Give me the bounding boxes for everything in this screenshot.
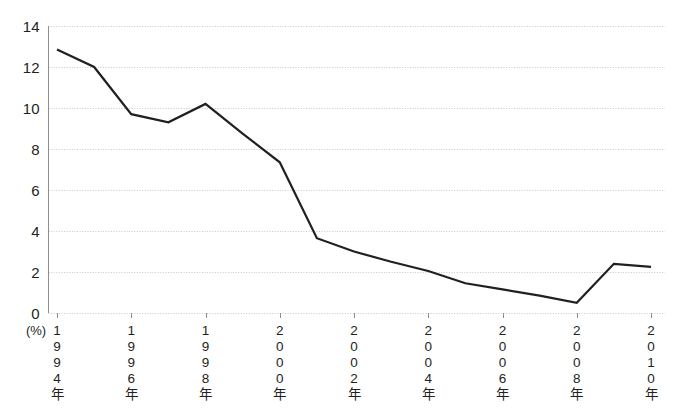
y-axis-unit-label: (%) (26, 323, 46, 338)
x-tick-marks (58, 313, 652, 318)
y-tick-label-0: 0 (31, 305, 39, 322)
y-tick-label-2: 2 (31, 264, 39, 281)
y-tick-label-12: 12 (23, 59, 40, 76)
gridlines (49, 27, 666, 314)
y-tick-label-4: 4 (31, 223, 39, 240)
y-tick-label-8: 8 (31, 141, 39, 158)
chart-canvas: 02468101214 (%) 1994年1996年1998年2000年2002… (0, 0, 675, 415)
line-chart: 02468101214 (%) 1994年1996年1998年2000年2002… (0, 0, 675, 415)
y-tick-label-14: 14 (23, 18, 40, 35)
x-tick-label-2006: 2006年 (496, 323, 509, 402)
y-tick-labels: 02468101214 (23, 18, 40, 322)
x-tick-label-1998: 1998年 (199, 323, 212, 402)
y-tick-label-10: 10 (23, 100, 40, 117)
x-tick-label-1994: 1994年 (51, 323, 64, 402)
x-tick-labels: 1994年1996年1998年2000年2002年2004年2006年2008年… (51, 323, 658, 402)
x-tick-label-2004: 2004年 (422, 323, 435, 402)
x-tick-label-2000: 2000年 (273, 323, 286, 402)
data-series-line (57, 50, 651, 303)
x-tick-label-2002: 2002年 (348, 323, 361, 402)
y-tick-label-6: 6 (31, 182, 39, 199)
x-tick-label-2010: 2010年 (645, 323, 658, 402)
x-tick-label-2008: 2008年 (570, 323, 583, 402)
x-tick-label-1996: 1996年 (125, 323, 138, 402)
